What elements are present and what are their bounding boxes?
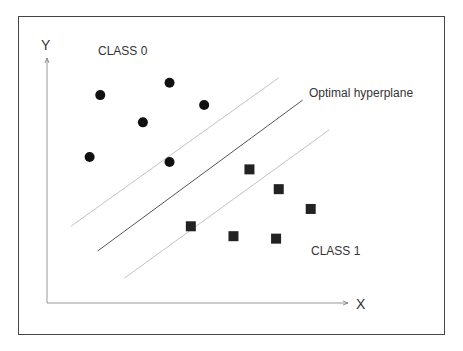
svm-diagram: Y X CLASS 0 CLASS 1 Optimal hyperplane [0, 0, 463, 351]
class1-label: CLASS 1 [311, 244, 361, 258]
class1-point [306, 204, 316, 214]
class0-label: CLASS 0 [98, 44, 148, 58]
class1-point [228, 231, 238, 241]
class0-point [95, 90, 105, 100]
hyperplane-label: Optimal hyperplane [309, 86, 413, 100]
class1-point [271, 234, 281, 244]
class1-point [244, 164, 254, 174]
class0-point [199, 100, 209, 110]
class1-point [274, 184, 284, 194]
y-axis-label: Y [41, 37, 51, 53]
class1-point [186, 221, 196, 231]
class0-point [165, 78, 175, 88]
frame-border [19, 17, 445, 335]
class0-point [138, 117, 148, 127]
class0-point [85, 152, 95, 162]
class0-point [165, 157, 175, 167]
x-axis-label: X [356, 296, 366, 312]
